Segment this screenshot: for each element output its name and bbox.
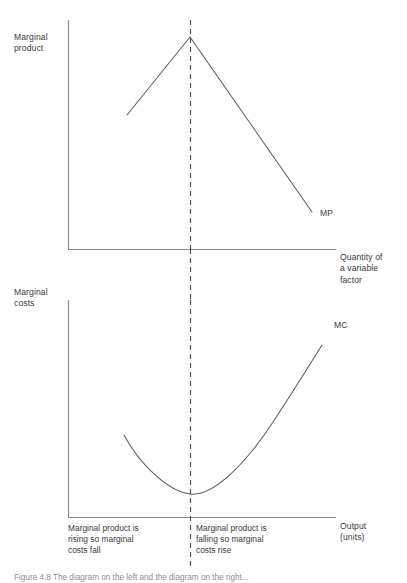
marginal-cost-curve <box>124 345 322 494</box>
top-chart-y-axis-label: Marginal product <box>14 32 76 55</box>
figure-caption: Figure 4.8 The diagram on the left and t… <box>14 572 404 583</box>
annotation-right-region: Marginal product is falling so marginal … <box>196 523 320 557</box>
annotation-left-region: Marginal product is rising so marginal c… <box>68 523 188 557</box>
bottom-chart-x-axis-label: Output (units) <box>340 521 402 544</box>
bottom-chart-y-axis-label: Marginal costs <box>14 287 76 310</box>
figure-root: Marginal product Quantity of a variable … <box>0 0 407 583</box>
top-chart-x-axis-label: Quantity of a variable factor <box>340 252 404 286</box>
marginal-product-curve <box>127 37 312 212</box>
marginal-product-curve-label: MP <box>320 208 333 219</box>
bottom-chart-group <box>68 300 336 518</box>
marginal-cost-curve-label: MC <box>334 320 347 331</box>
top-chart-group <box>68 20 336 250</box>
